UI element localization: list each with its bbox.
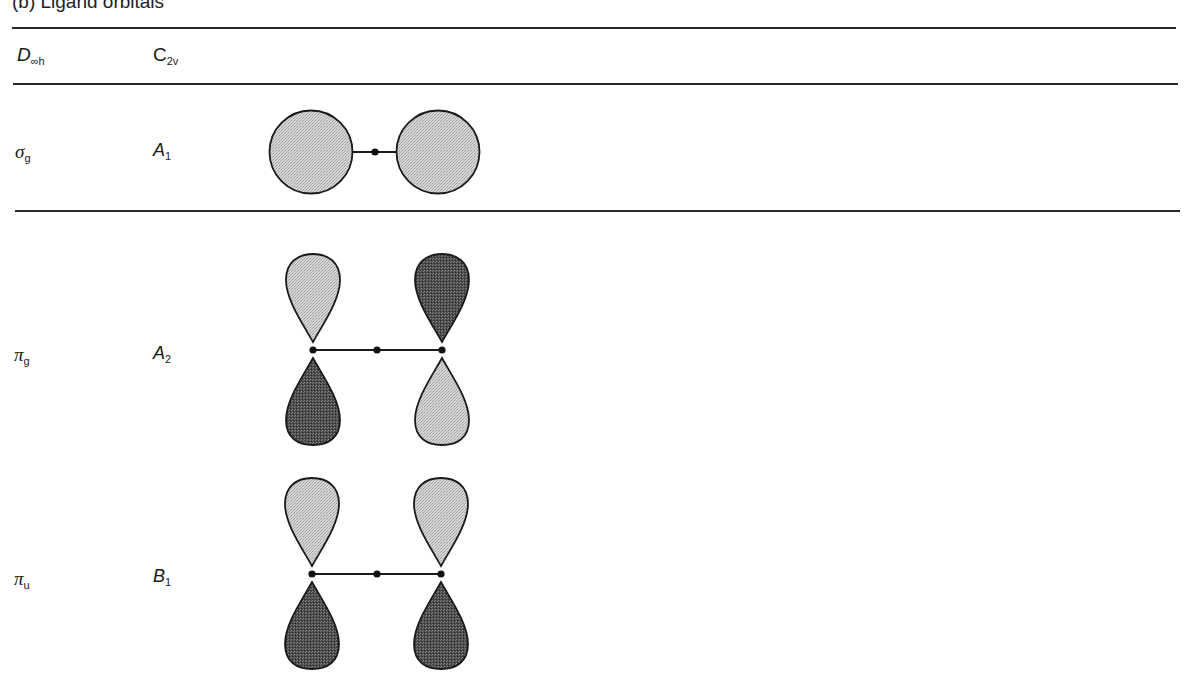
pi-u-diagram [285, 478, 468, 669]
orbital-diagrams [0, 0, 1184, 685]
pi-g-diagram [286, 254, 469, 445]
central-atom-dot [373, 570, 380, 577]
ligand-s-orbital-right [397, 111, 480, 194]
central-atom-dot [373, 346, 380, 353]
ligand-s-orbital-left [270, 111, 353, 194]
sigma-g-diagram [270, 111, 480, 194]
central-atom-dot [371, 148, 378, 155]
